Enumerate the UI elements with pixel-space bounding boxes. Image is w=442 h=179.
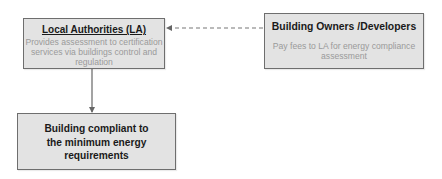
building-owners-title: Building Owners /Developers (265, 21, 423, 33)
local-authorities-box: Local Authorities (LA) Provides assessme… (23, 18, 165, 69)
compliant-building-box: Building compliant to the minimum energy… (17, 113, 176, 170)
compliant-building-title: Building compliant to the minimum energy… (18, 122, 175, 163)
local-authorities-description: Provides assessment to certification ser… (24, 37, 164, 67)
building-owners-box: Building Owners /Developers Pay fees to … (264, 13, 424, 69)
local-authorities-title: Local Authorities (LA) (24, 24, 164, 36)
building-owners-description: Pay fees to LA for energy compliance ass… (265, 41, 423, 61)
